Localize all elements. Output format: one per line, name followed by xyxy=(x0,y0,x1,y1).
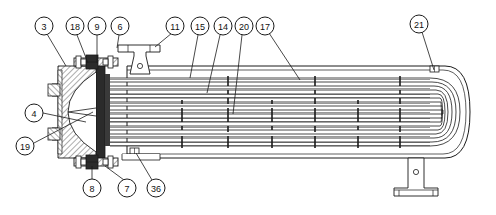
callout-balloon-21[interactable]: 21 xyxy=(410,15,428,33)
callout-label-9: 9 xyxy=(94,22,99,32)
callout-balloon-9[interactable]: 9 xyxy=(88,17,106,35)
callout-balloon-36[interactable]: 36 xyxy=(147,179,165,197)
callout-balloon-3[interactable]: 3 xyxy=(35,17,53,35)
drawing-canvas: 3 18 9 6 11 15 xyxy=(0,0,496,215)
vent-fitting-top-right xyxy=(430,66,439,72)
drawing-body xyxy=(34,32,470,196)
callout-label-21: 21 xyxy=(414,20,424,30)
callout-label-6: 6 xyxy=(117,22,122,32)
saddle-support-right xyxy=(394,158,438,196)
tubesheet xyxy=(96,62,110,158)
callout-balloon-20[interactable]: 20 xyxy=(235,17,253,35)
callout-label-15: 15 xyxy=(195,22,205,32)
tube-bundle xyxy=(110,78,460,146)
callout-label-19: 19 xyxy=(20,142,30,152)
callout-label-7: 7 xyxy=(124,184,129,194)
callout-label-4: 4 xyxy=(31,109,36,119)
callout-balloon-4[interactable]: 4 xyxy=(25,104,43,122)
callout-balloon-18[interactable]: 18 xyxy=(66,17,84,35)
callout-balloon-6[interactable]: 6 xyxy=(111,17,129,35)
callout-balloon-8[interactable]: 8 xyxy=(83,179,101,197)
flange-joint-top xyxy=(74,55,118,69)
callout-label-14: 14 xyxy=(218,22,228,32)
callout-label-36: 36 xyxy=(151,184,161,194)
callout-label-17: 17 xyxy=(260,22,270,32)
heat-exchanger-assembly-drawing: 3 18 9 6 11 15 xyxy=(0,0,496,215)
callout-balloon-7[interactable]: 7 xyxy=(118,179,136,197)
callout-label-8: 8 xyxy=(89,184,94,194)
callout-label-20: 20 xyxy=(239,22,249,32)
callout-balloon-15[interactable]: 15 xyxy=(191,17,209,35)
channel-head xyxy=(48,66,96,158)
callout-balloon-11[interactable]: 11 xyxy=(166,17,184,35)
callout-label-3: 3 xyxy=(41,22,46,32)
callout-balloon-14[interactable]: 14 xyxy=(214,17,232,35)
callout-label-18: 18 xyxy=(70,22,80,32)
flange-joint-bottom xyxy=(74,155,118,169)
callout-balloon-19[interactable]: 19 xyxy=(16,137,34,155)
callout-label-11: 11 xyxy=(170,22,179,32)
callout-balloon-17[interactable]: 17 xyxy=(256,17,274,35)
